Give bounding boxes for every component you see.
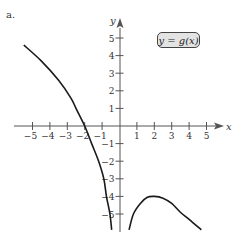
y-tick-label: 1 [109, 104, 115, 114]
y-axis-arrow-icon [117, 18, 124, 28]
chart-figure: −5−4−3−2−112345 −5−4−3−2−112345 x y a. y… [0, 0, 249, 248]
panel-label: a. [6, 9, 15, 20]
x-tick-label: 2 [151, 131, 157, 141]
y-tick-label: −1 [101, 139, 114, 149]
y-tick-label: −2 [101, 157, 114, 167]
x-tick-label: 5 [204, 131, 210, 141]
x-tick-label: −5 [24, 131, 38, 141]
x-tick-label: −4 [41, 131, 55, 141]
y-tick-label: 4 [109, 51, 115, 61]
y-axis [117, 18, 124, 232]
x-tick-label: −3 [59, 131, 73, 141]
y-tick-label: 5 [109, 34, 115, 44]
x-tick-label: 3 [169, 131, 175, 141]
curve-right-branch [129, 196, 201, 230]
x-axis [14, 123, 224, 130]
x-ticks: −5−4−3−2−112345 [24, 122, 210, 141]
chart-svg: −5−4−3−2−112345 −5−4−3−2−112345 x y [0, 0, 249, 248]
x-tick-label: 4 [186, 131, 192, 141]
y-tick-label: 2 [109, 86, 115, 96]
function-label-box: y = g(x) [157, 32, 200, 48]
y-axis-label: y [109, 15, 116, 26]
y-tick-label: −5 [101, 210, 115, 220]
y-tick-label: 3 [109, 69, 115, 79]
x-tick-label: 1 [134, 131, 140, 141]
x-axis-label: x [226, 121, 232, 132]
